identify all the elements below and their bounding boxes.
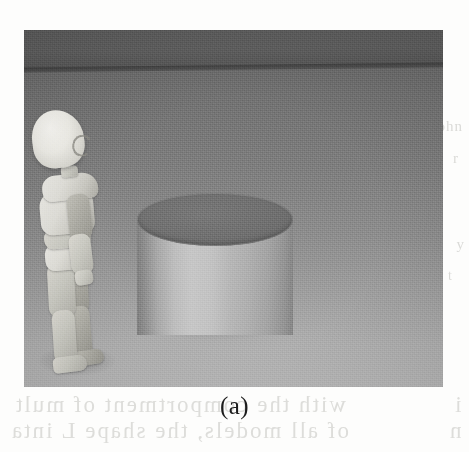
bleedthrough-text: y <box>457 236 466 253</box>
cylinder-top-rim <box>137 193 293 246</box>
scanned-page: ohn r y t with the comportment of mult o… <box>0 0 469 452</box>
cylinder-object <box>137 193 293 360</box>
bleedthrough-text: t <box>448 268 453 284</box>
bleedthrough-text: n <box>448 418 462 444</box>
bleedthrough-text: r <box>453 150 459 167</box>
mannequin-head <box>28 107 88 172</box>
figure-image <box>24 30 443 387</box>
mannequin-ear <box>70 133 94 158</box>
mannequin-figure <box>32 110 157 372</box>
mannequin-hand <box>74 269 94 287</box>
mannequin-forearm <box>68 233 95 275</box>
figure-caption: (a) <box>0 392 469 420</box>
bleedthrough-text: of all models, the shape L inta <box>10 418 349 444</box>
